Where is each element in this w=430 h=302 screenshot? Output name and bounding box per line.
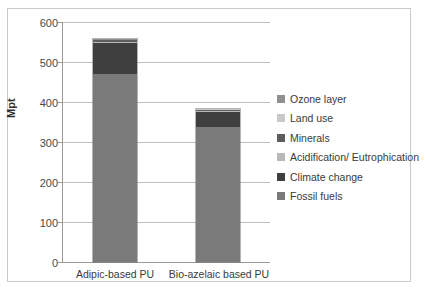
y-tick-label-300: 300 xyxy=(24,138,58,149)
legend-label-acidification-eutrophication: Acidification/ Eutrophication xyxy=(290,152,419,163)
y-tick-200 xyxy=(58,182,63,183)
x-axis-line xyxy=(62,262,270,263)
legend-swatch-icon-land-use xyxy=(277,114,285,122)
gridline-600 xyxy=(63,22,270,23)
legend-label-minerals: Minerals xyxy=(290,133,330,144)
y-tick-400 xyxy=(58,102,63,103)
y-tick-600 xyxy=(58,22,63,23)
legend-swatch-icon-fossil-fuels xyxy=(277,192,285,200)
bar-segment xyxy=(93,43,137,74)
legend-swatch-icon-minerals xyxy=(277,134,285,142)
legend-swatch-icon-climate-change xyxy=(277,173,285,181)
y-tick-100 xyxy=(58,222,63,223)
y-tick-0 xyxy=(58,262,63,263)
legend-item-land-use[interactable]: Land use xyxy=(277,109,427,129)
legend-swatch-icon-ozone-layer xyxy=(277,95,285,103)
y-tick-label-600: 600 xyxy=(24,18,58,29)
legend-label-climate-change: Climate change xyxy=(290,172,363,183)
x-tick-label-adipic-based-pu: Adipic-based PU xyxy=(63,268,167,280)
chart-figure: Mpt 600 500 400 300 200 100 0 Adipic-bas… xyxy=(0,0,430,302)
y-tick-300 xyxy=(58,142,63,143)
y-tick-label-200: 200 xyxy=(24,178,58,189)
y-tick-500 xyxy=(58,62,63,63)
y-tick-label-0: 0 xyxy=(24,258,58,269)
legend-item-climate-change[interactable]: Climate change xyxy=(277,167,427,187)
legend-item-minerals[interactable]: Minerals xyxy=(277,128,427,148)
bar-segment xyxy=(196,112,240,126)
legend-label-land-use: Land use xyxy=(290,113,333,124)
plot-area xyxy=(63,22,270,262)
legend-swatch-icon-acidification-eutrophication xyxy=(277,153,285,161)
y-tick-label-100: 100 xyxy=(24,218,58,229)
legend-label-ozone-layer: Ozone layer xyxy=(290,94,347,105)
y-tick-label-500: 500 xyxy=(24,58,58,69)
bar-segment xyxy=(196,127,240,262)
y-axis-title: Mpt xyxy=(5,58,17,118)
legend-label-fossil-fuels: Fossil fuels xyxy=(290,191,343,202)
legend-item-fossil-fuels[interactable]: Fossil fuels xyxy=(277,187,427,207)
legend-item-ozone-layer[interactable]: Ozone layer xyxy=(277,89,427,109)
y-tick-label-400: 400 xyxy=(24,98,58,109)
stacked-bar-bio-azelaic-based-pu[interactable] xyxy=(196,109,240,262)
chart-legend: Ozone layer Land use Minerals Acidificat… xyxy=(277,89,427,206)
stacked-bar-adipic-based-pu[interactable] xyxy=(93,39,137,262)
x-tick-label-bio-azelaic-based-pu: Bio-azelaic based PU xyxy=(160,268,278,280)
legend-item-acidification-eutrophication[interactable]: Acidification/ Eutrophication xyxy=(277,148,427,168)
bar-segment xyxy=(93,74,137,262)
